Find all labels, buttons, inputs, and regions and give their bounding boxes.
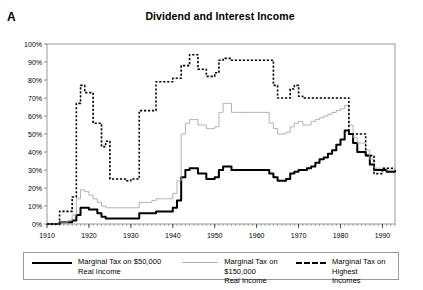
legend-label-50000: Marginal Tax on $50,000 Real Income: [78, 257, 161, 276]
chart-legend: Marginal Tax on $50,000 Real Income Marg…: [23, 252, 399, 280]
y-tick-label: 80%: [28, 77, 42, 84]
legend-label-50000-line1: Marginal Tax on $50,000: [78, 257, 161, 266]
panel-label: A: [7, 10, 16, 24]
x-axis-ticks: 191019201930194019501960197019801990: [39, 224, 395, 239]
y-tick-label: 20%: [28, 185, 42, 192]
y-tick-label: 0%: [32, 221, 42, 228]
x-tick-label: 1970: [291, 232, 307, 239]
x-tick-label: 1920: [81, 232, 97, 239]
x-tick-label: 1930: [123, 232, 139, 239]
legend-label-150000: Marginal Tax on $150,000 Real Income: [224, 257, 286, 286]
chart-figure: A Dividend and Interest Income 0%10%20%3…: [0, 0, 423, 290]
x-tick-label: 1940: [165, 232, 181, 239]
plot-area: 0%10%20%30%40%50%60%70%80%90%100% 191019…: [0, 28, 423, 243]
legend-label-highest-line2: Incomes: [332, 276, 361, 285]
legend-label-50000-line2: Real Income: [78, 267, 121, 276]
x-tick-label: 1910: [39, 232, 55, 239]
legend-label-highest: Marginal Tax on Highest Incomes: [332, 257, 398, 286]
legend-swatch-dashed-icon: [294, 257, 328, 269]
legend-label-150000-line1: Marginal Tax on $150,000: [224, 257, 278, 276]
y-tick-label: 100%: [24, 41, 42, 48]
y-tick-label: 10%: [28, 203, 42, 210]
y-axis-ticks: 0%10%20%30%40%50%60%70%80%90%100%: [24, 41, 47, 228]
chart-title: Dividend and Interest Income: [60, 10, 380, 22]
legend-item-highest: Marginal Tax on Highest Incomes: [294, 257, 398, 286]
y-tick-label: 50%: [28, 131, 42, 138]
y-tick-label: 40%: [28, 149, 42, 156]
x-tick-label: 1990: [375, 232, 391, 239]
plot-border: [47, 44, 395, 224]
x-tick-label: 1980: [333, 232, 349, 239]
legend-label-150000-line2: Real Income: [224, 276, 267, 285]
x-tick-label: 1960: [249, 232, 265, 239]
legend-item-50000: Marginal Tax on $50,000 Real Income: [30, 257, 172, 276]
y-tick-label: 70%: [28, 95, 42, 102]
legend-swatch-solid-thick-icon: [30, 257, 74, 269]
y-tick-label: 60%: [28, 113, 42, 120]
y-tick-label: 90%: [28, 59, 42, 66]
legend-label-highest-line1: Marginal Tax on Highest: [332, 257, 386, 276]
legend-swatch-solid-thin-icon: [180, 257, 220, 269]
y-tick-label: 30%: [28, 167, 42, 174]
x-tick-label: 1950: [207, 232, 223, 239]
legend-item-150000: Marginal Tax on $150,000 Real Income: [180, 257, 286, 286]
